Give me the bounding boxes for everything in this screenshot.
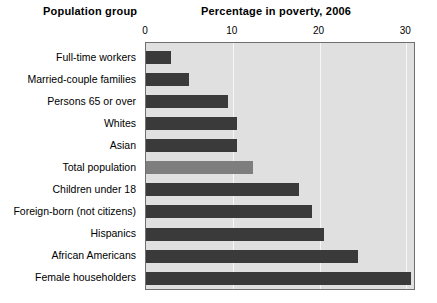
x-tick-label-30: 30 [400,25,411,37]
bar-row [146,47,414,69]
bar-total-population [146,161,253,174]
bar-row [146,157,414,179]
bar-row [146,179,414,201]
bar-row [146,135,414,157]
category-label-column: Full-time workersMarried-couple families… [0,42,141,290]
category-label-children-under-18: Children under 18 [0,178,141,200]
category-label-whites: Whites [0,112,141,134]
category-label-married-couple-families: Married-couple families [0,68,141,90]
plot-area [145,42,415,290]
bars-layer [146,43,414,289]
bar-children-under-18 [146,183,299,196]
bar-row [146,69,414,91]
bar-persons-65-or-over [146,95,228,108]
bar-asian [146,139,237,152]
category-label-foreign-born-not-citizens: Foreign-born (not citizens) [0,200,141,222]
bar-row [146,245,414,267]
bar-married-couple-families [146,73,189,86]
category-label-total-population: Total population [0,156,141,178]
category-label-asian: Asian [0,134,141,156]
bar-foreign-born-not-citizens [146,205,312,218]
x-tick-label-20: 20 [313,25,324,37]
chart-header-row: Population group Percentage in poverty, … [0,0,437,24]
bar-row [146,223,414,245]
bar-female-householders [146,272,411,285]
category-label-persons-65-or-over: Persons 65 or over [0,90,141,112]
category-label-female-householders: Female householders [0,266,141,288]
category-label-hispanics: Hispanics [0,222,141,244]
bar-african-americans [146,250,358,263]
bar-full-time-workers [146,51,171,64]
bar-row [146,91,414,113]
bar-row [146,113,414,135]
bar-row [146,201,414,223]
bar-hispanics [146,228,324,241]
x-tick-label-10: 10 [226,25,237,37]
category-label-african-americans: African Americans [0,244,141,266]
bar-whites [146,117,237,130]
population-group-header: Population group [43,5,137,17]
percentage-in-poverty-header: Percentage in poverty, 2006 [201,5,351,17]
category-label-full-time-workers: Full-time workers [0,46,141,68]
x-tick-label-0: 0 [142,25,148,37]
bar-row [146,267,414,289]
